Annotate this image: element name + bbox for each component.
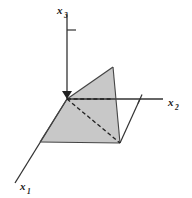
- x2-axis-label-subscript: 2: [174, 103, 179, 112]
- x2-axis-label-base: x: [167, 96, 174, 108]
- x1-axis-label-subscript: 1: [27, 187, 31, 196]
- coordinate-diagram: x 3 x 2 x 1: [0, 0, 192, 198]
- x3-axis-label-base: x: [56, 4, 63, 16]
- shaded-plane-region: [40, 67, 120, 143]
- x1-axis-label-base: x: [19, 180, 26, 192]
- x3-axis-label-subscript: 3: [63, 11, 68, 20]
- projection-line-to-x2-tick: [120, 99, 140, 143]
- x3-axis-label: x 3: [56, 4, 68, 20]
- x1-axis-label: x 1: [19, 180, 31, 196]
- figure-container: x 3 x 2 x 1: [0, 0, 192, 198]
- x2-axis-label: x 2: [167, 96, 179, 112]
